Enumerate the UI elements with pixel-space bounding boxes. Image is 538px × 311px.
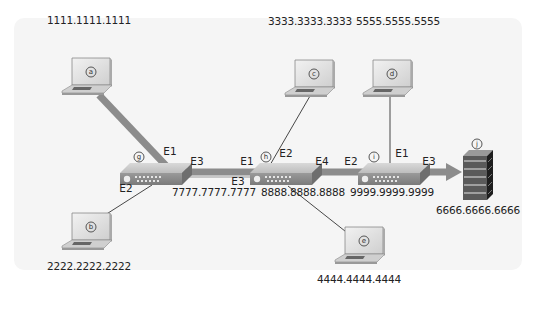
address-label-d: 5555.5555.5555 (356, 15, 440, 27)
node-tag-b: b (86, 222, 97, 233)
port-i-e3: E3 (422, 155, 435, 167)
port-i-e1: E1 (395, 147, 408, 159)
node-tag-a: a (86, 67, 97, 78)
address-label-c: 3333.3333.3333 (268, 15, 352, 27)
node-tag-g: g (134, 152, 145, 163)
address-label-i: 9999.9999.9999 (350, 186, 434, 198)
address-label-h: 8888.8888.8888 (261, 186, 345, 198)
port-h-e4: E4 (315, 155, 328, 167)
switch-i-icon (358, 163, 430, 185)
node-tag-i: i (369, 152, 380, 163)
node-tag-j: j (472, 139, 483, 150)
address-label-g: 7777.7777.7777 (172, 186, 256, 198)
node-tag-h: h (261, 152, 272, 163)
port-h-e2: E2 (279, 147, 292, 159)
address-label-j: 6666.6666.6666 (436, 204, 520, 216)
node-tag-d: d (387, 69, 398, 80)
port-g-e3: E3 (190, 155, 203, 167)
port-h-e1: E1 (240, 155, 253, 167)
arrowhead-icon (446, 163, 462, 181)
server-j-icon (463, 150, 493, 200)
address-label-b: 2222.2222.2222 (47, 260, 131, 272)
node-tag-e: e (359, 236, 370, 247)
node-tag-c: c (309, 69, 320, 80)
port-g-e1: E1 (163, 145, 176, 157)
port-i-e2: E2 (344, 155, 357, 167)
switch-h-icon (250, 163, 322, 185)
port-h-e3: E3 (231, 175, 244, 187)
address-label-a: 1111.1111.1111 (47, 14, 131, 26)
address-label-e: 4444.4444.4444 (317, 273, 401, 285)
port-g-e2: E2 (119, 182, 132, 194)
